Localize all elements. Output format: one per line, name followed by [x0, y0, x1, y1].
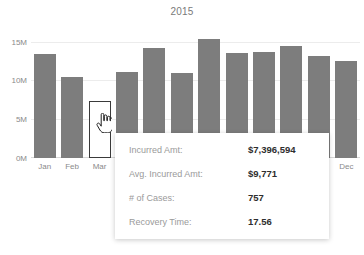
tooltip-value: 17.56	[248, 216, 272, 227]
tooltip-row: Avg. Incurred Amt:$9,771	[115, 164, 329, 188]
tooltip-row: # of Cases:757	[115, 188, 329, 212]
x-axis-tick-label-mar: Mar	[87, 162, 113, 171]
x-axis-tick-label-jan: Jan	[32, 162, 58, 171]
tooltip-row: Recovery Time:17.56	[115, 212, 329, 236]
bar-feb[interactable]	[61, 77, 83, 158]
chart-screenshot: 2015 0M5M10M15M JanFebMarDec Incurred Am…	[0, 0, 364, 255]
gridline	[31, 42, 360, 43]
tooltip-row: Incurred Amt:$7,396,594	[115, 140, 329, 164]
x-axis-tick-label-feb: Feb	[59, 162, 85, 171]
pointing-hand-cursor	[96, 113, 112, 133]
bar-jan[interactable]	[34, 54, 56, 158]
tooltip-label: Incurred Amt:	[129, 145, 183, 155]
tooltip-label: # of Cases:	[129, 193, 175, 203]
chart-title: 2015	[0, 6, 364, 17]
tooltip-value: $9,771	[248, 168, 277, 179]
tooltip-value: $7,396,594	[248, 144, 296, 155]
y-axis-tick-label: 0M	[1, 154, 27, 163]
data-tooltip: Incurred Amt:$7,396,594Avg. Incurred Amt…	[115, 133, 329, 239]
tooltip-value: 757	[248, 192, 264, 203]
y-axis-tick-label: 5M	[1, 115, 27, 124]
y-axis-tick-label: 10M	[1, 76, 27, 85]
y-axis-tick-label: 15M	[1, 38, 27, 47]
x-axis-tick-label-dec: Dec	[333, 162, 359, 171]
tooltip-label: Recovery Time:	[129, 217, 192, 227]
bar-dec[interactable]	[335, 61, 357, 158]
tooltip-label: Avg. Incurred Amt:	[129, 169, 203, 179]
